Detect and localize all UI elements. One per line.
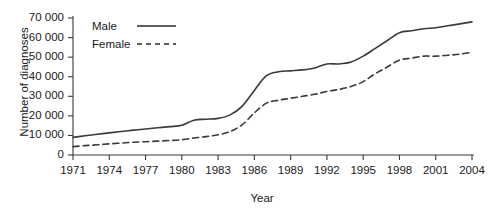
y-tick-label: 60 000 — [0, 32, 64, 44]
y-tick-label: 40 000 — [0, 71, 64, 83]
x-tick-label: 2001 — [416, 165, 456, 177]
x-tick-label: 1998 — [379, 165, 419, 177]
series-line-male — [73, 22, 472, 137]
x-tick-label: 1980 — [162, 165, 202, 177]
y-axis-title: Number of diagnoses — [18, 12, 30, 152]
x-tick-label: 1986 — [234, 165, 274, 177]
y-tick-label: 10 000 — [0, 129, 64, 141]
x-tick-label: 1995 — [343, 165, 383, 177]
chart-figure: 010 00020 00030 00040 00050 00060 00070 … — [0, 0, 498, 222]
x-tick-label: 1992 — [307, 165, 347, 177]
legend-label-male: Male — [92, 21, 117, 33]
y-tick-label: 50 000 — [0, 51, 64, 63]
y-tick-label: 70 000 — [0, 12, 64, 24]
y-tick-label: 0 — [0, 149, 64, 161]
x-tick-label: 1983 — [198, 165, 238, 177]
legend-label-female: Female — [92, 39, 130, 51]
x-tick-label: 1971 — [53, 165, 93, 177]
x-tick-label: 1977 — [126, 165, 166, 177]
y-axis-ticks — [68, 18, 73, 155]
y-tick-label: 20 000 — [0, 110, 64, 122]
legend-line-samples — [137, 26, 176, 44]
x-tick-label: 1974 — [89, 165, 129, 177]
x-axis-ticks — [73, 155, 472, 160]
data-series-group — [73, 22, 472, 147]
y-tick-label: 30 000 — [0, 90, 64, 102]
x-tick-label: 2004 — [452, 165, 492, 177]
chart-plot-area — [0, 0, 498, 222]
x-tick-label: 1989 — [271, 165, 311, 177]
x-axis-title: Year — [232, 192, 292, 204]
series-line-female — [73, 52, 472, 146]
